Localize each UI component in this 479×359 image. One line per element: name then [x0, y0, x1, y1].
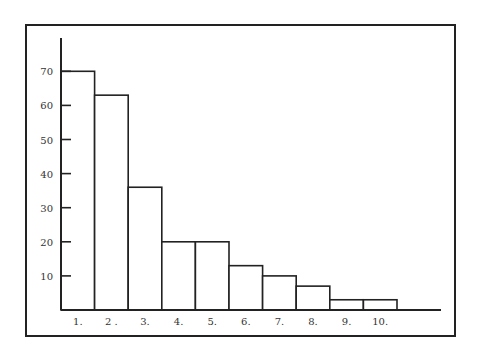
x-tick-label: 8.: [308, 316, 318, 327]
x-tick-label: 6.: [241, 316, 251, 327]
x-labels-group: 1.2 .3.4.5.6.7.8.9.10.: [73, 316, 388, 327]
bar-9: [330, 300, 364, 310]
bar-5: [195, 242, 229, 310]
y-tick-label: 50: [40, 135, 53, 146]
y-tick-label: 20: [40, 237, 53, 248]
bar-3: [128, 187, 162, 310]
bars-group: [61, 71, 397, 310]
x-tick-label: 4.: [174, 316, 184, 327]
bar-10: [363, 300, 397, 310]
bar-8: [296, 286, 330, 310]
bar-6: [229, 266, 263, 310]
x-tick-label: 7.: [275, 316, 285, 327]
x-tick-label: 1.: [73, 316, 83, 327]
y-tick-label: 70: [40, 66, 53, 77]
bar-1: [61, 71, 95, 310]
y-tick-label: 10: [40, 271, 53, 282]
bar-4: [162, 242, 196, 310]
bar-2: [95, 95, 129, 310]
bar-7: [263, 276, 297, 310]
y-tick-label: 60: [40, 100, 53, 111]
x-tick-label: 2 .: [105, 316, 118, 327]
y-tick-label: 30: [40, 203, 53, 214]
x-tick-label: 5.: [207, 316, 217, 327]
x-tick-label: 3.: [140, 316, 150, 327]
y-tick-label: 40: [40, 169, 53, 180]
x-tick-label: 10.: [372, 316, 388, 327]
x-tick-label: 9.: [342, 316, 352, 327]
bar-chart: 10203040506070 1.2 .3.4.5.6.7.8.9.10.: [0, 0, 479, 359]
